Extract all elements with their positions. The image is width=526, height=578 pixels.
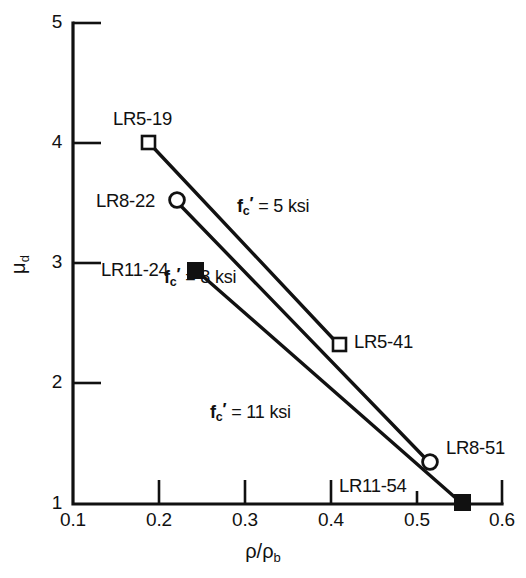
fc-subscript-8ksi: c <box>170 275 177 289</box>
marker-lr5-41[interactable] <box>333 338 346 351</box>
point-label-lr11-24: LR11-24 <box>101 259 169 281</box>
series-annotation-text-8ksi: = 8 ksi <box>180 267 236 287</box>
point-label-lr8-51: LR8-51 <box>446 437 505 459</box>
fc-subscript-5ksi: c <box>243 204 250 218</box>
marker-lr8-51[interactable] <box>423 455 438 470</box>
y-tick-label-2: 2 <box>22 371 62 393</box>
x-tick-label-0-4: 0.4 <box>301 509 361 531</box>
series-annotation-11ksi: fc′ = 11 ksi <box>210 400 291 424</box>
x-axis-title: ρ/ρb <box>0 540 526 565</box>
figure-container: 5 4 3 2 1 0.1 0.2 0.3 0.4 0.5 0.6 LR5-19… <box>0 0 526 578</box>
fc-subscript-11ksi: c <box>216 410 223 424</box>
x-axis-title-sub: b <box>274 550 281 565</box>
y-axis-title-main: μ <box>7 262 29 274</box>
marker-lr11-54[interactable] <box>455 495 470 510</box>
point-label-lr8-22: LR8-22 <box>96 190 155 212</box>
x-tick-label-0-1: 0.1 <box>43 509 103 531</box>
marker-lr8-22[interactable] <box>170 193 185 208</box>
point-label-lr11-54: LR11-54 <box>339 475 407 497</box>
x-axis-title-main: ρ/ρ <box>245 540 273 562</box>
y-axis-title: μd <box>7 230 32 300</box>
fc-symbol-8ksi: fc′ <box>164 267 180 287</box>
series-annotation-5ksi: fc′ = 5 ksi <box>237 194 309 218</box>
fc-symbol-11ksi: fc′ <box>210 402 226 422</box>
series-annotation-text-5ksi: = 5 ksi <box>253 196 309 216</box>
x-tick-label-0-2: 0.2 <box>129 509 189 531</box>
point-label-lr5-19: LR5-19 <box>113 108 172 130</box>
fc-symbol-5ksi: fc′ <box>237 196 253 216</box>
x-tick-label-0-6: 0.6 <box>472 509 526 531</box>
caption-strip <box>0 566 526 578</box>
series-annotation-8ksi: fc′ = 8 ksi <box>164 265 236 289</box>
y-axis-title-sub: d <box>17 255 32 262</box>
series-line-11ksi <box>198 272 458 500</box>
x-tick-label-0-5: 0.5 <box>387 509 447 531</box>
series-annotation-text-11ksi: = 11 ksi <box>226 402 290 422</box>
chart-plot-svg <box>0 0 526 578</box>
marker-lr5-19[interactable] <box>142 136 155 149</box>
y-tick-label-5: 5 <box>22 11 62 33</box>
y-tick-label-4: 4 <box>22 131 62 153</box>
x-tick-label-0-3: 0.3 <box>215 509 275 531</box>
point-label-lr5-41: LR5-41 <box>354 331 413 353</box>
